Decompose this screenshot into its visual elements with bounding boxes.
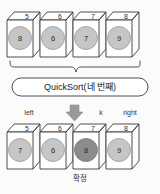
before-value-2: 7 xyxy=(84,35,88,43)
after-index-1: 6 xyxy=(58,125,62,132)
pointer-k-label: k xyxy=(99,109,103,116)
after-value-3: 9 xyxy=(117,147,121,155)
diagram-vector-layer xyxy=(0,0,160,194)
before-box-0 xyxy=(7,12,40,57)
after-value-0: 7 xyxy=(18,147,22,155)
before-index-0: 5 xyxy=(25,13,29,20)
pointer-left-label: left xyxy=(24,109,33,116)
after-value-2: 8 xyxy=(84,147,88,155)
operation-label: QuickSort(네 번째) xyxy=(44,83,116,92)
before-box-2 xyxy=(73,12,106,57)
after-value-1: 6 xyxy=(51,147,55,155)
before-value-1: 6 xyxy=(51,35,55,43)
after-box-1 xyxy=(40,124,73,169)
down-arrow-icon xyxy=(66,105,83,121)
before-value-3: 9 xyxy=(117,35,121,43)
quicksort-diagram: 5 6 7 8 8 6 7 9 QuickSort(네 번째) left k r… xyxy=(0,0,160,194)
after-index-2: 7 xyxy=(91,125,95,132)
pointer-right-label: right xyxy=(123,109,137,116)
before-index-2: 7 xyxy=(91,13,95,20)
before-index-3: 8 xyxy=(124,13,128,20)
grouping-brace xyxy=(10,61,140,72)
fixed-caption: 확정 xyxy=(73,175,87,183)
after-index-0: 5 xyxy=(25,125,29,132)
before-box-1 xyxy=(40,12,73,57)
after-index-3: 8 xyxy=(124,125,128,132)
after-box-3 xyxy=(106,124,139,169)
before-index-1: 6 xyxy=(58,13,62,20)
after-box-2 xyxy=(73,124,106,169)
before-value-0: 8 xyxy=(18,35,22,43)
before-box-3 xyxy=(106,12,139,57)
after-box-0 xyxy=(7,124,40,169)
